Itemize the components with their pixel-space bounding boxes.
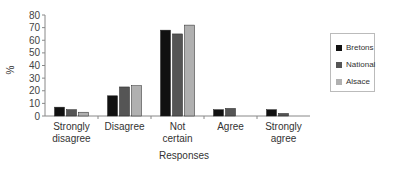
legend-item-national: National [336, 56, 374, 73]
legend-swatch-icon [336, 79, 342, 85]
legend-label: Alsace [346, 77, 370, 86]
bar-bretons [161, 30, 171, 116]
x-category-label: Strongly [265, 121, 302, 132]
y-axis-title: % [5, 65, 16, 74]
bar-national [279, 113, 289, 116]
x-category-label: Strongly [53, 121, 90, 132]
x-category-label: agree [271, 133, 297, 144]
y-tick-label: 40 [29, 60, 41, 71]
bar-national [173, 34, 183, 116]
legend-item-alsace: Alsace [336, 73, 374, 90]
bar-bretons [108, 96, 118, 116]
bar-alsace [79, 112, 89, 116]
bar-national [226, 108, 236, 116]
legend-label: Bretons [346, 43, 374, 52]
y-axis: 01020304050607080 [29, 10, 45, 122]
bar-national [120, 87, 130, 116]
legend: Bretons National Alsace [330, 33, 375, 92]
x-category-label: Not [170, 121, 186, 132]
y-tick-label: 10 [29, 98, 41, 109]
y-tick-label: 50 [29, 47, 41, 58]
y-tick-label: 70 [29, 22, 41, 33]
bars [55, 25, 289, 116]
x-category-label: disagree [52, 133, 91, 144]
bar-bretons [55, 107, 65, 116]
x-category-label: Disagree [104, 121, 144, 132]
bar-bretons [214, 110, 224, 116]
x-category-label: certain [162, 133, 192, 144]
y-tick-label: 20 [29, 85, 41, 96]
bar-national [67, 110, 77, 116]
bar-alsace [185, 25, 195, 116]
x-axis: StronglydisagreeDisagreeNotcertainAgreeS… [45, 116, 310, 144]
y-tick-label: 30 [29, 73, 41, 84]
y-tick-label: 80 [29, 10, 41, 21]
legend-label: National [346, 60, 375, 69]
bar-alsace [132, 86, 142, 116]
legend-swatch-icon [336, 62, 342, 68]
x-axis-title: Responses [159, 150, 209, 161]
y-tick-label: 0 [34, 111, 40, 122]
y-tick-label: 60 [29, 35, 41, 46]
bar-bretons [267, 110, 277, 116]
legend-item-bretons: Bretons [336, 39, 374, 56]
legend-swatch-icon [336, 45, 342, 51]
x-category-label: Agree [217, 121, 244, 132]
